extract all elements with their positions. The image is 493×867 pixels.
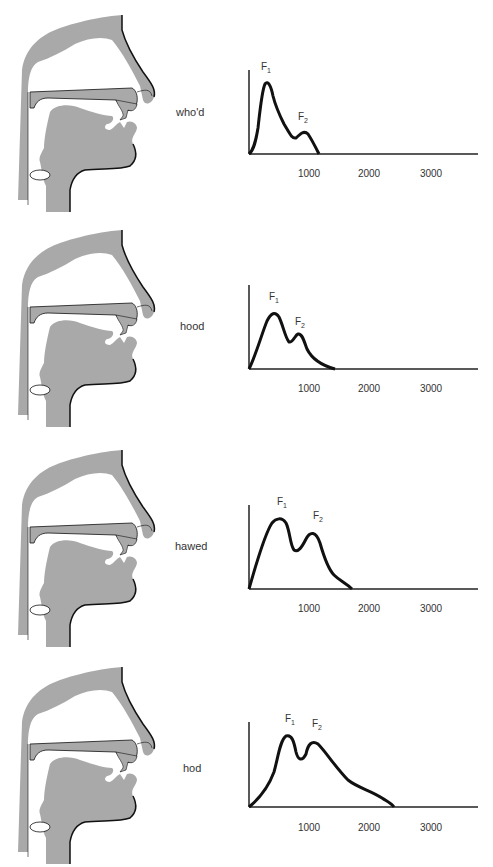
x-tick-3000: 3000 — [420, 603, 443, 614]
formant-spectrum-chart: F1 F2 1000 2000 3000 — [240, 435, 493, 650]
x-tick-1000: 1000 — [298, 168, 321, 179]
x-tick-3000: 3000 — [420, 168, 443, 179]
x-tick-2000: 2000 — [358, 383, 381, 394]
panel-hawed: hawed F1 F2 1000 2000 3000 — [0, 435, 493, 650]
f1-label: F1 — [269, 291, 279, 304]
x-tick-1000: 1000 — [298, 822, 321, 833]
f1-label: F1 — [261, 61, 271, 74]
x-tick-3000: 3000 — [420, 383, 443, 394]
spectrum-curve — [249, 519, 352, 589]
x-tick-1000: 1000 — [298, 383, 321, 394]
spectrum-curve — [249, 83, 319, 154]
formant-spectrum-chart: F1 F2 1000 2000 3000 — [240, 652, 493, 867]
x-tick-2000: 2000 — [358, 822, 381, 833]
x-tick-3000: 3000 — [420, 822, 443, 833]
vocal-tract-diagram — [0, 435, 170, 650]
f2-label: F2 — [298, 111, 308, 124]
x-tick-2000: 2000 — [358, 168, 381, 179]
panel-hod: hod F1 F2 1000 2000 3000 — [0, 652, 493, 867]
f1-label: F1 — [277, 496, 287, 509]
f1-label: F1 — [285, 713, 295, 726]
vocal-tract-diagram — [0, 652, 170, 867]
f2-label: F2 — [313, 510, 323, 523]
x-tick-2000: 2000 — [358, 603, 381, 614]
spectrum-curve — [249, 314, 335, 369]
x-tick-1000: 1000 — [298, 603, 321, 614]
vowel-label: who'd — [176, 106, 204, 118]
vowel-label: hawed — [175, 540, 207, 552]
panel-whod: who'd F1 F2 1000 2000 3000 — [0, 0, 493, 215]
formant-spectrum-chart: F1 F2 1000 2000 3000 — [240, 215, 493, 430]
panel-hood: hood F1 F2 1000 2000 3000 — [0, 215, 493, 430]
spectrum-curve — [249, 736, 394, 807]
vocal-tract-diagram — [0, 215, 170, 430]
f2-label: F2 — [295, 316, 305, 329]
vowel-label: hod — [183, 762, 201, 774]
f2-label: F2 — [312, 718, 322, 731]
formant-spectrum-chart: F1 F2 1000 2000 3000 — [240, 0, 493, 215]
vocal-tract-diagram — [0, 0, 170, 215]
vowel-label: hood — [180, 320, 204, 332]
